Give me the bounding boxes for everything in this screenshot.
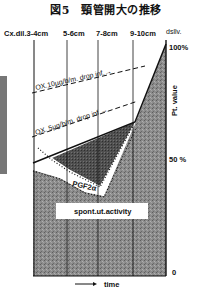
y-tick-50: 50 %: [169, 155, 186, 164]
stage-label-2: 7-8cm: [96, 29, 118, 38]
ox10-label: OX.10µg/b/m. drop inf.→: [35, 67, 112, 92]
arrowhead-icon: [93, 282, 97, 286]
chart: Cx.dil.3-4cm 5-6cm 7-8cm 9-10cm dsllv. 1…: [0, 0, 212, 292]
ox5-label: OX. 5µg/b/m. drop inf.→: [34, 106, 108, 137]
stage-label-0: Cx.dil.3-4cm: [4, 29, 49, 38]
y-tick-0: 0: [172, 268, 176, 277]
dilv-label: dsllv.: [166, 28, 181, 35]
ox10-line: [32, 66, 145, 93]
spont-label: spont.ut.activity: [74, 207, 132, 216]
y-axis-label: Pt. value: [170, 85, 179, 116]
stage-label-3: 9-10cm: [130, 29, 156, 38]
y-tick-100: 100%: [169, 43, 189, 52]
stage-label-1: 5-6cm: [63, 29, 85, 38]
scan-artifact: [0, 76, 7, 174]
x-axis-label: time: [104, 280, 119, 289]
